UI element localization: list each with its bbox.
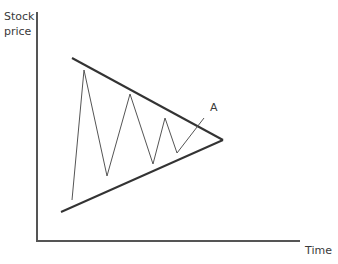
price-line <box>72 70 204 200</box>
upper-trendline <box>72 58 223 140</box>
chart-canvas <box>0 0 338 264</box>
lower-trendline <box>61 140 223 212</box>
